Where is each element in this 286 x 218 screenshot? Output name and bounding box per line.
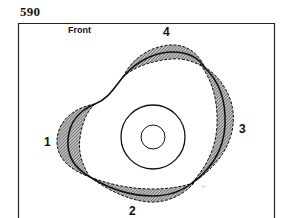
center-circles (121, 105, 185, 169)
lobe-3-band (192, 64, 233, 183)
region-label-3: 3 (239, 123, 246, 135)
outer-circle (121, 105, 185, 169)
inner-circle (141, 125, 165, 149)
deformation-diagram (0, 0, 286, 218)
lobe-2-band (90, 177, 194, 202)
lobe-4-band (123, 45, 205, 77)
region-label-1: 1 (44, 136, 51, 148)
front-label: Front (68, 26, 91, 35)
main-contour (68, 52, 225, 196)
region-label-2: 2 (129, 205, 136, 217)
scan-artifact-mark: ″″ (202, 185, 206, 190)
region-label-4: 4 (163, 26, 170, 38)
